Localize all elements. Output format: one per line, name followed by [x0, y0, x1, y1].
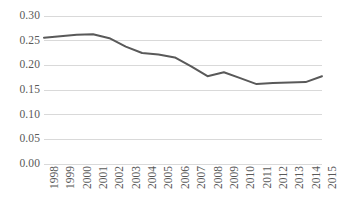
- plot-area: [44, 16, 322, 164]
- x-tick-label: 2007: [196, 166, 208, 189]
- x-tick-label: 2009: [229, 166, 241, 189]
- x-tick-label: 2015: [327, 166, 339, 189]
- y-tick-label: 0.25: [0, 35, 40, 47]
- x-tick-label: 1998: [49, 166, 61, 189]
- plot-svg: [44, 16, 322, 164]
- x-tick-label: 2012: [278, 166, 290, 189]
- data-line: [44, 34, 322, 84]
- x-tick-label: 2000: [82, 166, 94, 189]
- data-series-group: [44, 34, 322, 84]
- x-tick-label: 1999: [65, 166, 77, 189]
- x-tick-label: 2011: [262, 166, 274, 189]
- gridlines: [44, 16, 322, 164]
- x-tick-label: 2004: [147, 166, 159, 189]
- x-tick-label: 2003: [131, 166, 143, 189]
- y-tick-label: 0.10: [0, 109, 40, 121]
- x-tick-label: 2008: [213, 166, 225, 189]
- y-axis: 0.000.050.100.150.200.250.30: [0, 16, 40, 164]
- x-tick-label: 2005: [163, 166, 175, 189]
- y-tick-label: 0.30: [0, 10, 40, 22]
- x-tick-label: 2002: [114, 166, 126, 189]
- x-tick-label: 2010: [245, 166, 257, 189]
- x-tick-label: 2001: [98, 166, 110, 189]
- x-tick-label: 2006: [180, 166, 192, 189]
- x-axis: 1998199920002001200220032004200520062007…: [44, 164, 322, 211]
- y-tick-label: 0.20: [0, 60, 40, 72]
- y-tick-label: 0.00: [0, 158, 40, 170]
- y-tick-label: 0.15: [0, 84, 40, 96]
- x-tick-label: 2014: [311, 166, 323, 189]
- y-tick-label: 0.05: [0, 134, 40, 146]
- x-tick-label: 2013: [294, 166, 306, 189]
